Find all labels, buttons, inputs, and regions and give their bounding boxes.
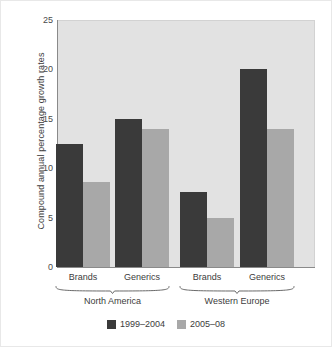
x-axis-category-label: Generics [249, 272, 285, 282]
bars-layer: BrandsGenericsBrandsGenericsNorth Americ… [1, 1, 331, 346]
x-axis-category-label: Generics [124, 272, 160, 282]
bar [83, 182, 110, 267]
group-brace [55, 286, 170, 294]
chart-legend: 1999–20042005–08 [1, 319, 331, 329]
bar [267, 129, 294, 267]
legend-swatch-icon [107, 320, 116, 329]
legend-label: 1999–2004 [120, 319, 165, 329]
legend-item: 1999–2004 [107, 319, 165, 329]
group-label: Western Europe [205, 296, 270, 306]
bar [56, 144, 83, 268]
bar [240, 69, 267, 267]
group-brace [179, 286, 295, 294]
legend-label: 2005–08 [190, 319, 225, 329]
legend-item: 2005–08 [177, 319, 225, 329]
x-axis-category-label: Brands [193, 272, 222, 282]
bar [207, 218, 234, 267]
bar [142, 129, 169, 267]
bar [115, 119, 142, 267]
chart-figure: Compound annual percentage growth rates … [0, 0, 332, 347]
legend-swatch-icon [177, 320, 186, 329]
group-label: North America [84, 296, 141, 306]
x-axis-category-label: Brands [69, 272, 98, 282]
bar [180, 192, 207, 267]
